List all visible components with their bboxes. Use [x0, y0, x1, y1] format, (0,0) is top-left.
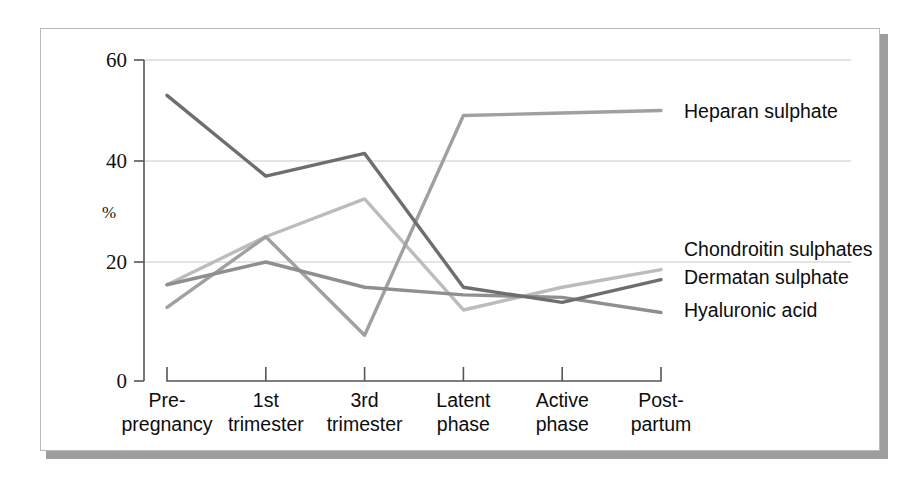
- y-tick-label-0: 0: [117, 369, 128, 393]
- series-line-heparan: [167, 95, 661, 302]
- x-axis-label-line1-2: 1st: [253, 389, 280, 411]
- x-axis-label-6: Post-partum: [631, 389, 692, 435]
- x-axis-label-line2-1: pregnancy: [121, 413, 212, 435]
- figure-frame: 0204060%Pre-pregnancy1sttrimester3rdtrim…: [40, 28, 880, 451]
- series-label-heparan: Heparan sulphate: [684, 100, 838, 122]
- series-label-hyaluronic: Hyaluronic acid: [684, 299, 817, 321]
- x-axis-label-line2-4: phase: [437, 413, 490, 435]
- x-axis-label-1: Pre-pregnancy: [121, 389, 212, 435]
- series-label-dermatan: Dermatan sulphate: [684, 266, 849, 288]
- y-axis-unit-label: %: [102, 203, 116, 222]
- x-axis-label-line1-6: Post-: [638, 389, 684, 411]
- chart-plot-area: 0204060%Pre-pregnancy1sttrimester3rdtrim…: [41, 29, 881, 452]
- y-tick-label-40: 40: [106, 149, 127, 173]
- series-label-chondroitin: Chondroitin sulphates: [684, 238, 873, 260]
- x-axis-label-line1-4: Latent: [436, 389, 491, 411]
- line-chart: 0204060%Pre-pregnancy1sttrimester3rdtrim…: [41, 29, 881, 452]
- x-axis-label-line2-3: trimester: [327, 413, 403, 435]
- x-axis-label-2: 1sttrimester: [228, 389, 304, 435]
- x-axis-label-line1-3: 3rd: [351, 389, 379, 411]
- x-axis-label-line2-6: partum: [631, 413, 692, 435]
- x-axis-label-4: Latentphase: [436, 389, 491, 435]
- x-axis-label-line2-2: trimester: [228, 413, 304, 435]
- x-axis-label-5: Activephase: [536, 389, 589, 435]
- x-axis-bracket: [167, 367, 661, 381]
- y-tick-label-20: 20: [106, 250, 127, 274]
- x-axis-label-3: 3rdtrimester: [327, 389, 403, 435]
- x-axis-label-line2-5: phase: [536, 413, 589, 435]
- series-line-hyaluronic: [167, 262, 661, 313]
- x-axis-label-line1-1: Pre-: [149, 389, 186, 411]
- x-axis-label-line1-5: Active: [536, 389, 589, 411]
- y-tick-label-60: 60: [106, 48, 127, 72]
